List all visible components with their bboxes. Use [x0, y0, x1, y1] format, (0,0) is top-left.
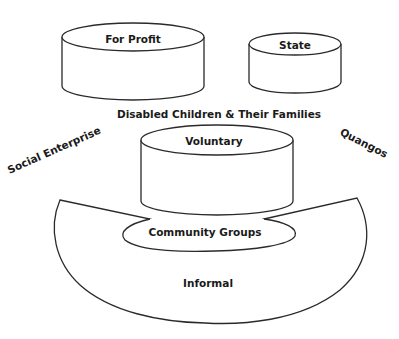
informal-label: Informal — [183, 278, 233, 289]
informal-shape — [54, 198, 366, 323]
community-groups-label: Community Groups — [148, 227, 261, 238]
state-label: State — [279, 40, 311, 51]
for-profit-label: For Profit — [105, 34, 161, 45]
voluntary-label: Voluntary — [185, 136, 242, 147]
diagram-canvas: For Profit State Disabled Children & The… — [0, 0, 399, 339]
center-label: Disabled Children & Their Families — [117, 109, 321, 120]
